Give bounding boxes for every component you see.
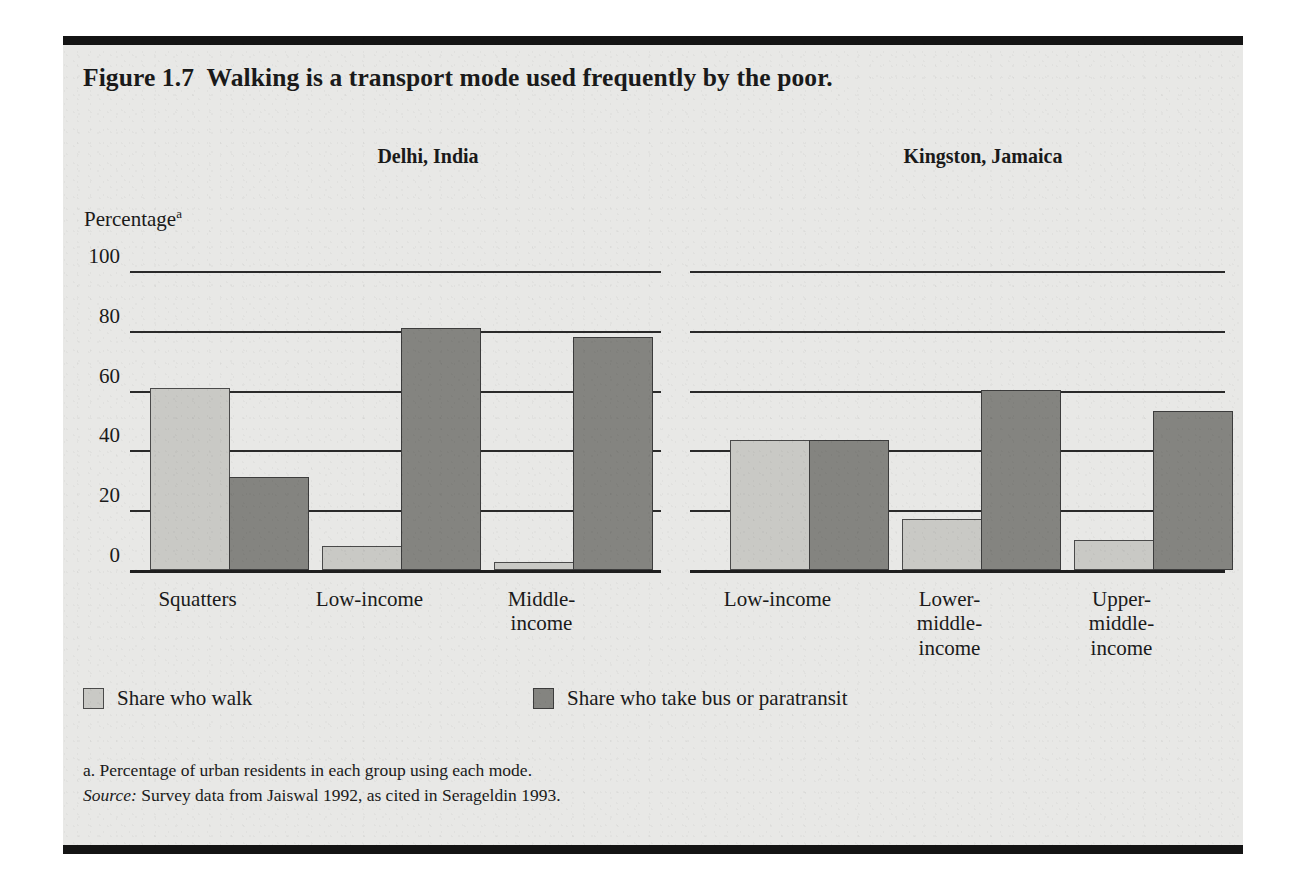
- bar-squatters-bus[interactable]: [229, 477, 309, 570]
- top-rule: [63, 36, 1243, 45]
- bar-lower-middle-income-bus[interactable]: [981, 390, 1061, 570]
- source-text: Survey data from Jaiswal 1992, as cited …: [137, 785, 561, 805]
- ytick-80: 80: [60, 306, 120, 331]
- bar-upper-middle-income-walk[interactable]: [1074, 540, 1154, 570]
- xlabel-squatters: Squatters: [110, 587, 285, 611]
- bar-group-upper-middle-income: [1074, 271, 1234, 570]
- legend-swatch-bus-icon: [533, 688, 554, 709]
- y-axis-title: Percentagea: [84, 206, 182, 232]
- bar-low-income-bus[interactable]: [401, 328, 481, 570]
- xlabel-upper-middle-income: Upper- middle- income: [1034, 587, 1209, 660]
- chart-kingston: [690, 271, 1225, 570]
- xlabel-low-income-delhi: Low-income: [282, 587, 457, 611]
- chart-delhi: 100 80 60 40 20 0: [130, 271, 661, 570]
- legend-item-bus[interactable]: Share who take bus or paratransit: [533, 686, 848, 711]
- bar-low-income-walk[interactable]: [322, 546, 402, 570]
- source-keyword: Source:: [83, 785, 137, 805]
- bar-lower-middle-income-walk[interactable]: [902, 519, 982, 570]
- chart-legend: Share who walk Share who take bus or par…: [83, 686, 1223, 726]
- bar-upper-middle-income-bus[interactable]: [1153, 411, 1233, 570]
- figure-note-a: a. Percentage of urban residents in each…: [83, 758, 561, 783]
- y-axis-title-superscript: a: [176, 206, 182, 221]
- bar-middle-income-walk[interactable]: [494, 562, 574, 570]
- xlabel-low-income-kingston: Low-income: [690, 587, 865, 611]
- bar-low-income-bus[interactable]: [809, 440, 889, 570]
- baseline-0: [130, 570, 661, 573]
- bottom-rule: [63, 845, 1243, 854]
- ytick-20: 20: [60, 485, 120, 510]
- bar-group-low-income-kingston: [730, 271, 890, 570]
- ytick-100: 100: [60, 246, 120, 271]
- ytick-60: 60: [60, 366, 120, 391]
- figure-notes: a. Percentage of urban residents in each…: [83, 758, 561, 808]
- legend-swatch-walk-icon: [83, 688, 104, 709]
- ytick-40: 40: [60, 425, 120, 450]
- y-axis-title-text: Percentage: [84, 207, 176, 231]
- xlabel-lower-middle-income: Lower- middle- income: [862, 587, 1037, 660]
- bar-group-low-income: [322, 271, 482, 570]
- bar-group-middle-income: [494, 271, 654, 570]
- bar-group-lower-middle-income: [902, 271, 1062, 570]
- figure-source: Source: Survey data from Jaiswal 1992, a…: [83, 783, 561, 808]
- panel-title-kingston: Kingston, Jamaica: [763, 145, 1203, 168]
- panel-title-delhi: Delhi, India: [208, 145, 648, 168]
- figure-panel: Figure 1.7 Walking is a transport mode u…: [63, 36, 1243, 854]
- bar-middle-income-bus[interactable]: [573, 337, 653, 570]
- baseline-0: [690, 570, 1225, 573]
- bar-low-income-walk[interactable]: [730, 440, 810, 570]
- legend-label-bus: Share who take bus or paratransit: [567, 686, 848, 711]
- legend-item-walk[interactable]: Share who walk: [83, 686, 252, 711]
- bar-squatters-walk[interactable]: [150, 388, 230, 570]
- ytick-0: 0: [60, 545, 120, 570]
- bar-group-squatters: [150, 271, 310, 570]
- xlabel-middle-income-delhi: Middle- income: [454, 587, 629, 636]
- legend-label-walk: Share who walk: [117, 686, 252, 711]
- figure-title: Figure 1.7 Walking is a transport mode u…: [83, 63, 833, 93]
